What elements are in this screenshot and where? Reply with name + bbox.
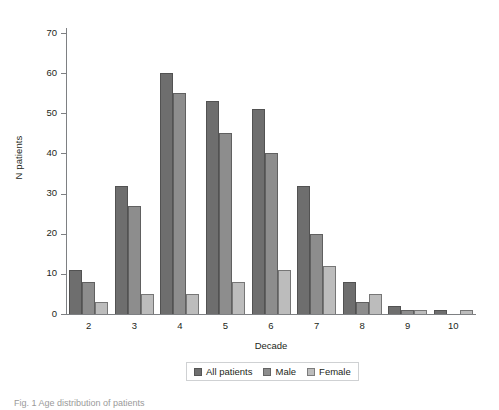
- bar: [95, 302, 108, 314]
- bar: [206, 101, 219, 314]
- y-tick: 40: [61, 153, 67, 154]
- bar: [69, 270, 82, 314]
- bar-group: 9: [388, 28, 427, 314]
- y-tick-label: 20: [46, 227, 57, 238]
- x-tick-label: 5: [206, 320, 245, 331]
- bar: [186, 294, 199, 314]
- bar: [141, 294, 154, 314]
- bar: [278, 270, 291, 314]
- y-tick: 20: [61, 234, 67, 235]
- bar: [434, 310, 447, 314]
- x-tick-label: 2: [69, 320, 108, 331]
- bar: [310, 234, 323, 314]
- plot-area: 010203040506070 2345678910: [66, 28, 476, 315]
- bar: [265, 153, 278, 314]
- bar-group: 2: [69, 28, 108, 314]
- bar: [388, 306, 401, 314]
- legend-swatch-icon: [263, 368, 271, 376]
- y-axis-line: [66, 28, 67, 315]
- x-tick-label: 6: [252, 320, 291, 331]
- bar-group: 5: [206, 28, 245, 314]
- bar: [356, 302, 369, 314]
- legend-item[interactable]: All patients: [194, 366, 252, 377]
- y-tick-label: 60: [46, 67, 57, 78]
- y-tick-label: 30: [46, 187, 57, 198]
- chart-legend: All patientsMaleFemale: [186, 362, 359, 381]
- bar: [232, 282, 245, 314]
- y-tick: 30: [61, 194, 67, 195]
- bar: [252, 109, 265, 314]
- bar: [414, 310, 427, 314]
- bar: [460, 310, 473, 314]
- bar: [297, 186, 310, 314]
- x-tick-label: 4: [160, 320, 199, 331]
- y-tick-label: 40: [46, 147, 57, 158]
- y-tick: 10: [61, 274, 67, 275]
- legend-label: Male: [275, 366, 296, 377]
- bar: [82, 282, 95, 314]
- x-tick-label: 3: [115, 320, 154, 331]
- legend-swatch-icon: [194, 368, 202, 376]
- bar-group: 4: [160, 28, 199, 314]
- bar: [401, 310, 414, 314]
- legend-item[interactable]: Female: [307, 366, 351, 377]
- bar-group: 8: [343, 28, 382, 314]
- y-axis-title: N patients: [13, 118, 24, 198]
- y-tick: 70: [61, 33, 67, 34]
- x-tick-label: 8: [343, 320, 382, 331]
- bar: [160, 73, 173, 314]
- bar-group: 6: [252, 28, 291, 314]
- bar-group: 7: [297, 28, 336, 314]
- bar: [323, 266, 336, 314]
- y-tick: 60: [61, 73, 67, 74]
- y-tick-label: 10: [46, 267, 57, 278]
- legend-label: Female: [319, 366, 351, 377]
- legend-label: All patients: [206, 366, 252, 377]
- y-tick-label: 50: [46, 107, 57, 118]
- x-axis-line: [66, 314, 476, 315]
- bar: [343, 282, 356, 314]
- bar: [173, 93, 186, 314]
- y-tick-label: 0: [52, 308, 57, 319]
- legend-swatch-icon: [307, 368, 315, 376]
- x-tick-label: 9: [388, 320, 427, 331]
- cropped-caption: Fig. 1 Age distribution of patients: [14, 398, 244, 410]
- y-tick: 0: [61, 314, 67, 315]
- legend-item[interactable]: Male: [263, 366, 296, 377]
- bar: [369, 294, 382, 314]
- bar-group: 3: [115, 28, 154, 314]
- x-tick-label: 7: [297, 320, 336, 331]
- x-axis-title: Decade: [66, 340, 476, 351]
- bar-group: 10: [434, 28, 473, 314]
- bar: [128, 206, 141, 314]
- bar: [115, 186, 128, 314]
- x-tick-label: 10: [434, 320, 473, 331]
- y-tick-label: 70: [46, 27, 57, 38]
- bar: [219, 133, 232, 314]
- y-tick: 50: [61, 113, 67, 114]
